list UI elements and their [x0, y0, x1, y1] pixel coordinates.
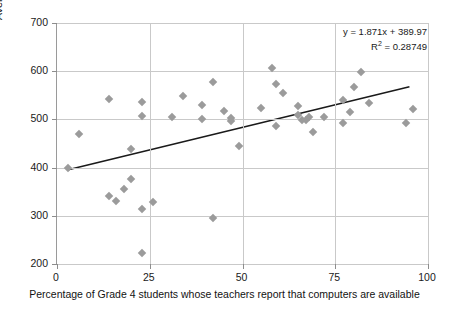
x-axis-tick-label: 75	[314, 271, 354, 283]
r-squared-number: = 0.28749	[382, 41, 427, 52]
x-axis-tick-label: 50	[222, 271, 262, 283]
y-axis-tick-label: 500	[18, 112, 48, 124]
gridline-vertical	[335, 23, 336, 264]
y-axis-tick	[52, 168, 57, 169]
gridline-vertical	[150, 23, 151, 264]
x-axis-tick-label: 100	[407, 271, 447, 283]
y-axis-tick-label: 400	[18, 161, 48, 173]
r-squared-value: R2 = 0.28749	[343, 39, 427, 54]
y-axis-tick-label: 600	[18, 64, 48, 76]
regression-annotation: y = 1.871x + 389.97 R2 = 0.28749	[343, 26, 427, 54]
y-axis-tick	[52, 23, 57, 24]
x-axis-tick	[335, 264, 336, 269]
y-axis-tick	[52, 71, 57, 72]
gridline-vertical	[243, 23, 244, 264]
x-axis-title: Percentage of Grade 4 students whose tea…	[0, 288, 449, 300]
plot-area	[56, 23, 428, 265]
y-axis-tick-label: 700	[18, 16, 48, 28]
x-axis-tick	[150, 264, 151, 269]
y-axis-title: Average Student Score for system: TIMSS …	[0, 0, 4, 20]
gridline-vertical	[428, 23, 429, 264]
x-axis-tick-label: 0	[36, 271, 76, 283]
y-axis-tick	[52, 119, 57, 120]
x-axis-tick	[428, 264, 429, 269]
x-axis-tick	[57, 264, 58, 269]
regression-equation: y = 1.871x + 389.97	[343, 26, 427, 39]
r-squared-label: R	[371, 41, 378, 52]
y-axis-tick-label: 200	[18, 257, 48, 269]
x-axis-tick	[243, 264, 244, 269]
x-axis-tick-label: 25	[129, 271, 169, 283]
y-axis-tick-label: 300	[18, 209, 48, 221]
y-axis-tick	[52, 216, 57, 217]
scatter-chart-screenshot: Average Student Score for system: TIMSS …	[0, 0, 449, 315]
